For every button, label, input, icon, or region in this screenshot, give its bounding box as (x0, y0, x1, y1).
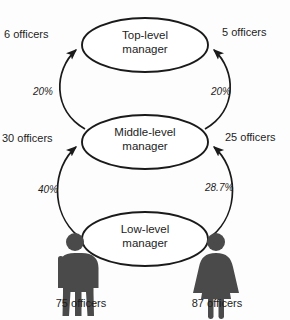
flow-arrow-middle-to-top-left (60, 50, 85, 129)
figure-caption-female: 87 officers (172, 297, 262, 309)
node-ellipse-low (82, 212, 208, 266)
flow-arrow-low-to-middle-left (58, 147, 79, 236)
percent-label-middle-to-top-right: 20% (211, 86, 231, 97)
node-ellipse-top (82, 18, 208, 72)
count-label-top-left: 6 officers (4, 28, 48, 40)
percent-label-low-to-middle-left: 40% (38, 184, 58, 195)
figure-caption-male: 75 officers (36, 297, 126, 309)
diagram-canvas (0, 0, 290, 320)
count-label-middle-right: 25 officers (225, 131, 276, 143)
percent-label-middle-to-top-left: 20% (33, 86, 53, 97)
count-label-top-right: 5 officers (222, 26, 266, 38)
promotion-flow-diagram: Top-level manager Middle-level manager L… (0, 0, 290, 320)
percent-label-low-to-middle-right: 28.7% (205, 182, 233, 193)
count-label-middle-left: 30 officers (2, 132, 53, 144)
node-ellipse-middle (82, 115, 208, 169)
